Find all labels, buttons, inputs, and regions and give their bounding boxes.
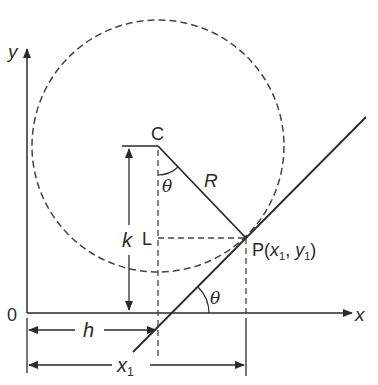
theta-center-label: θ xyxy=(162,176,172,196)
tangent-line xyxy=(133,117,366,352)
theta-arc-center xyxy=(158,167,178,175)
tangent-circle-diagram: y x 0 C R L k h x1 θ θ P(x1, y1) xyxy=(0,0,378,385)
theta-axis-label: θ xyxy=(210,288,220,308)
k-label: k xyxy=(122,229,133,251)
radius-label: R xyxy=(204,170,218,191)
point-P-label: P(x1, y1) xyxy=(252,240,316,262)
x-axis-label: x xyxy=(354,304,366,325)
center-label: C xyxy=(151,124,164,144)
y-axis-label: y xyxy=(6,41,19,62)
theta-arc-axis xyxy=(198,287,209,313)
foot-label: L xyxy=(142,229,152,249)
x1-label: x1 xyxy=(116,354,134,379)
h-label: h xyxy=(83,319,94,341)
origin-label: 0 xyxy=(7,305,17,325)
